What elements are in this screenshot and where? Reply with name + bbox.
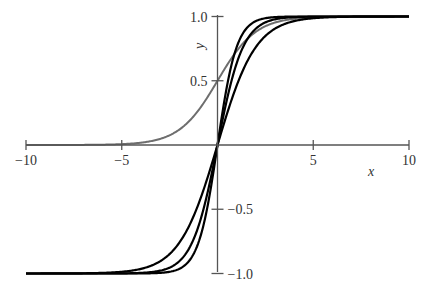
- sigmoid-chart: −10−55101.00.5−0.5−1.0 x y: [0, 0, 424, 290]
- axes: [26, 15, 409, 272]
- x-tick-label: −5: [114, 153, 129, 168]
- y-tick-label: −1.0: [228, 267, 253, 282]
- y-tick-label: −0.5: [228, 202, 253, 217]
- x-tick-label: 10: [402, 153, 416, 168]
- x-axis-label: x: [367, 164, 375, 179]
- x-tick-label: −10: [15, 153, 37, 168]
- y-tick-label: 0.5: [190, 74, 208, 89]
- y-tick-label: 1.0: [190, 10, 208, 25]
- x-tick-label: 5: [310, 153, 317, 168]
- y-axis-label: y: [192, 42, 207, 51]
